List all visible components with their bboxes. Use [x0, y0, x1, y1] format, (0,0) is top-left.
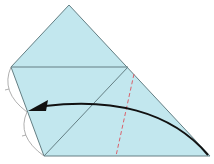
equal-tick-lower	[22, 135, 26, 136]
equal-tick-upper	[5, 89, 9, 90]
origami-diagram	[0, 0, 214, 164]
paper-shape	[11, 5, 210, 156]
